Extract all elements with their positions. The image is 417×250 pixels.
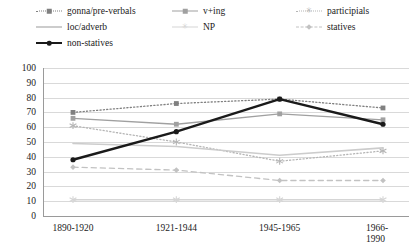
legend-label: non-statives (67, 38, 113, 48)
legend-label: v+ing (203, 6, 225, 16)
series-line (73, 143, 383, 155)
data-point (70, 157, 75, 162)
series-gonna-pre-verbals (71, 97, 386, 115)
x-tick-label: 1966-1990 (366, 223, 400, 245)
series-non-statives (70, 96, 385, 162)
legend-swatch: ✳ (296, 6, 322, 16)
series-line (73, 167, 383, 180)
legend-item[interactable]: statives (296, 22, 356, 32)
legend-item[interactable]: ✳participials (296, 6, 369, 16)
series-participials (70, 122, 387, 164)
legend-marker (183, 9, 188, 14)
legend-line (36, 26, 62, 28)
data-point (174, 167, 180, 173)
series-np (70, 196, 387, 203)
data-point (174, 122, 179, 127)
legend-label: statives (327, 22, 356, 32)
legend-item[interactable]: loc/adverb (36, 22, 107, 32)
legend-swatch: ✳ (172, 22, 198, 32)
x-tick-label: 1890-1920 (52, 223, 93, 234)
data-point (174, 101, 179, 106)
chart-legend: gonna/pre-verbalsv+ing✳participialsloc/a… (0, 6, 417, 56)
plot-area: 0102030405060708090100 1890-19201921-194… (0, 60, 417, 250)
data-point (381, 106, 386, 111)
x-tick-label: 1921-1944 (156, 223, 197, 234)
legend-item[interactable]: non-statives (36, 38, 113, 48)
legend-swatch (36, 22, 62, 32)
chart-figure: gonna/pre-verbalsv+ing✳participialsloc/a… (0, 0, 417, 250)
legend-marker (306, 24, 312, 30)
series-loc-adverb (73, 143, 383, 155)
legend-swatch (36, 6, 62, 16)
data-point (71, 116, 76, 121)
series-layer (0, 60, 417, 250)
legend-marker (47, 41, 52, 46)
data-point (70, 164, 76, 170)
legend-label: participials (327, 6, 369, 16)
data-point (277, 96, 282, 101)
legend-label: NP (203, 22, 215, 32)
data-point (174, 129, 179, 134)
data-point (277, 178, 283, 184)
legend-item[interactable]: v+ing (172, 6, 225, 16)
data-point (381, 117, 386, 122)
legend-label: gonna/pre-verbals (67, 6, 136, 16)
legend-swatch (296, 22, 322, 32)
legend-swatch (172, 6, 198, 16)
legend-item[interactable]: gonna/pre-verbals (36, 6, 136, 16)
legend-marker: ✳ (182, 23, 189, 31)
data-point (71, 110, 76, 115)
legend-item[interactable]: ✳NP (172, 22, 215, 32)
data-point (380, 178, 386, 184)
legend-marker: ✳ (306, 7, 313, 15)
legend-label: loc/adverb (67, 22, 107, 32)
series-statives (70, 164, 386, 183)
series-line (73, 99, 383, 112)
legend-marker (47, 9, 52, 14)
data-point (380, 122, 385, 127)
legend-swatch (36, 38, 62, 48)
series-line (73, 126, 383, 162)
data-point (277, 111, 282, 116)
x-tick-label: 1945-1965 (259, 223, 300, 234)
